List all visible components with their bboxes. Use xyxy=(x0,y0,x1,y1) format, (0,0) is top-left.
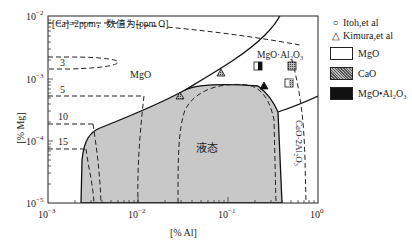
y-tick-label: 10−4 xyxy=(26,134,44,147)
legend-item-itoh: ○ Itoh,et al xyxy=(330,16,412,29)
legend-item-spinel: MgO•Al₂O₃ xyxy=(330,85,412,102)
region-label-liquid: 液态 xyxy=(196,141,218,154)
isoline-label-5: 5 xyxy=(60,84,65,95)
header-annotation: [Ca]=2ppm，数值为[ppm O] xyxy=(52,18,168,29)
legend-label: MgO xyxy=(358,47,379,60)
isoline-label-10: 10 xyxy=(58,111,68,122)
x-tick-label: 10−3 xyxy=(38,207,56,220)
y-axis-label: [% Mg] xyxy=(15,112,26,143)
legend-label: MgO•Al₂O₃ xyxy=(358,87,407,100)
swatch-hatched-icon xyxy=(330,67,353,80)
liquid-region xyxy=(81,85,282,203)
x-tick-label: 100 xyxy=(310,207,324,220)
y-axis-ticks xyxy=(48,20,53,184)
legend-label: CaO xyxy=(358,67,376,80)
swatch-white-icon xyxy=(330,47,353,60)
region-label-ca2: CaO·2Al₂O₃ xyxy=(294,120,304,166)
isoline-label-15: 15 xyxy=(58,136,68,147)
isoline-3ppm xyxy=(48,57,118,69)
region-label-spinel: MgO·Al₂O₃ xyxy=(257,50,303,60)
region-label-mgo: MgO xyxy=(130,69,151,80)
y-tick-label: 10−3 xyxy=(26,72,44,85)
legend: ○ Itoh,et al △ Kimura,et al MgO CaO MgO•… xyxy=(330,16,412,102)
y-tick-label: 10−2 xyxy=(26,9,44,22)
legend-label: Kimura,et al xyxy=(343,29,393,42)
isoline-label-3: 3 xyxy=(60,57,65,68)
legend-item-kimura: △ Kimura,et al xyxy=(330,29,412,42)
x-axis-label: [% Al] xyxy=(170,227,197,238)
x-tick-label: 10−2 xyxy=(128,207,146,220)
y-tick-label: 10−5 xyxy=(26,196,44,209)
itoh-data-points xyxy=(254,62,296,87)
triangle-icon: △ xyxy=(330,29,341,42)
legend-item-cao: CaO xyxy=(330,65,412,82)
swatch-black-icon xyxy=(330,87,353,100)
legend-label: Itoh,et al xyxy=(343,16,379,29)
x-tick-label: 10−1 xyxy=(218,207,236,220)
legend-item-mgo: MgO xyxy=(330,45,412,62)
circle-icon: ○ xyxy=(330,16,341,29)
spinel-ca2-boundary xyxy=(278,96,318,112)
